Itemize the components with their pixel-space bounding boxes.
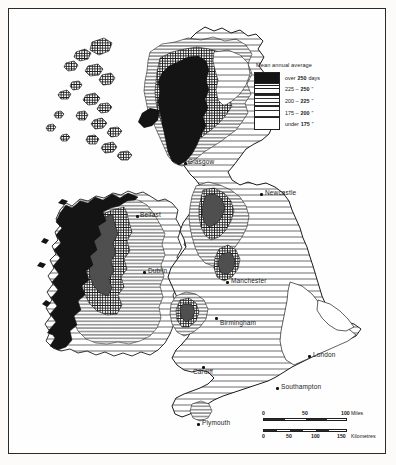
- legend-unit-0: days: [309, 75, 320, 81]
- scale-bar-kilometres: [263, 429, 347, 432]
- legend-value-0: 250: [298, 75, 307, 81]
- city-label-cardiff: Cardiff: [193, 369, 213, 376]
- legend-swatch-225-250: [255, 84, 279, 95]
- legend-prefix-4: under: [285, 121, 299, 127]
- city-label-manchester: Manchester: [231, 278, 266, 285]
- scale-km-tick-0: 0: [262, 433, 265, 439]
- legend-unit-2: ”: [312, 98, 314, 104]
- scale-km-tick-2: 100: [311, 433, 320, 439]
- city-dot-manchester: [226, 281, 229, 284]
- scale-km-tick-3: 150: [337, 433, 346, 439]
- city-label-newcastle: Newcastle: [265, 190, 296, 197]
- legend-row-175-200: 175 – 200 ”: [285, 107, 355, 119]
- scale-km-tick-1: 50: [286, 433, 292, 439]
- city-label-london: London: [313, 352, 336, 359]
- legend-swatch-200-225: [255, 95, 279, 106]
- city-dot-london: [308, 355, 311, 358]
- legend-swatch-over-250: [255, 73, 279, 84]
- legend-row-225-250: 225 – 250 ”: [285, 84, 355, 96]
- scale-miles-tick-2: 100: [341, 410, 350, 416]
- city-dot-birmingham: [215, 317, 218, 320]
- city-dot-newcastle: [260, 193, 263, 196]
- city-label-southampton: Southampton: [281, 384, 321, 391]
- city-dot-plymouth: [197, 423, 200, 426]
- legend-prefix-1: 225 –: [285, 86, 299, 92]
- hebrides-islands: [46, 38, 132, 160]
- dartmoor-band: [190, 401, 212, 421]
- legend-value-3: 200: [301, 110, 310, 116]
- city-label-belfast: Belfast: [140, 212, 161, 219]
- legend-unit-1: ”: [312, 86, 314, 92]
- scale-miles-unit: Miles: [351, 410, 363, 416]
- scale-miles-tick-1: 50: [302, 410, 308, 416]
- city-label-dublin: Dublin: [148, 268, 167, 275]
- legend-value-1: 250: [301, 86, 310, 92]
- legend-title: Mean annual average: [256, 62, 312, 68]
- scale-bar-miles: [263, 418, 347, 421]
- scale-km-unit: Kilometres: [351, 433, 376, 439]
- legend-rows: over 250 days 225 – 250 ” 200 – 225 ” 17…: [285, 72, 355, 130]
- legend-swatch-175-200: [255, 107, 279, 118]
- legend-unit-3: ”: [312, 110, 314, 116]
- legend-swatch-column: [254, 72, 280, 130]
- scale-miles-tick-0: 0: [262, 410, 265, 416]
- legend-row-under-175: under 175 ”: [285, 118, 355, 130]
- legend-prefix-2: 200 –: [285, 98, 299, 104]
- scanned-map-page: Glasgow Belfast Newcastle Dublin Manches…: [0, 0, 396, 465]
- legend-unit-4: ”: [312, 121, 314, 127]
- city-label-birmingham: Birmingham: [220, 320, 256, 327]
- legend-value-4: 175: [301, 121, 310, 127]
- legend-prefix-0: over: [285, 75, 296, 81]
- city-dot-dublin: [143, 271, 146, 274]
- city-dot-belfast: [136, 215, 139, 218]
- city-dot-glasgow: [184, 162, 187, 165]
- city-label-glasgow: Glasgow: [188, 159, 214, 166]
- legend-swatch-under-175: [255, 118, 279, 129]
- legend-row-over-250: over 250 days: [285, 72, 355, 84]
- legend-value-2: 225: [301, 98, 310, 104]
- city-dot-southampton: [276, 387, 279, 390]
- map-scale-bars: 0 50 100 Miles 0 50 100 150 Kilometres: [263, 410, 371, 440]
- legend-prefix-3: 175 –: [285, 110, 299, 116]
- city-label-plymouth: Plymouth: [202, 420, 230, 427]
- legend-row-200-225: 200 – 225 ”: [285, 95, 355, 107]
- map-legend: Mean annual average over 250 days 225 – …: [252, 62, 356, 138]
